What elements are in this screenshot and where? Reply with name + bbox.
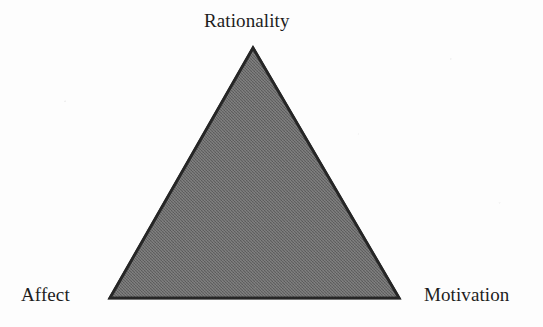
figure-canvas: Rationality Affect Motivation <box>0 0 543 327</box>
triangle-diagram <box>0 0 543 327</box>
triangle-grain-overlay <box>110 48 399 298</box>
vertex-label-motivation: Motivation <box>424 285 509 304</box>
vertex-label-rationality: Rationality <box>204 11 290 30</box>
vertex-label-affect: Affect <box>21 285 70 304</box>
triangle-shape <box>110 48 399 298</box>
